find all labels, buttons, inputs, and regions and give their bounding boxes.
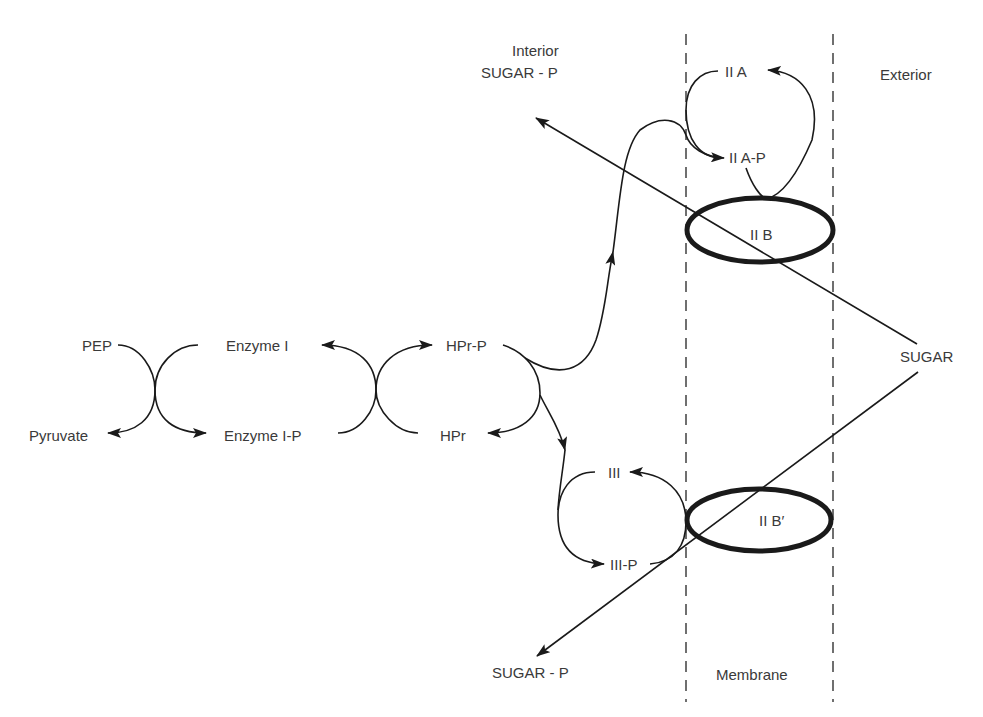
arrow-hpr-to-hpr-p xyxy=(376,345,432,433)
node-sugar-p-bottom: SUGAR - P xyxy=(492,664,569,681)
arrow-hpr-p-to-iii-p xyxy=(540,395,565,450)
node-pyruvate: Pyruvate xyxy=(29,427,88,444)
region-label-interior: Interior xyxy=(512,42,559,59)
node-sugar-p-top: SUGAR - P xyxy=(481,64,558,81)
node-iia-p: II A-P xyxy=(729,149,766,166)
node-pep: PEP xyxy=(82,337,112,354)
arrow-sugar-to-sugar-p-top xyxy=(536,118,917,344)
node-enzyme-i: Enzyme I xyxy=(226,337,289,354)
node-iib: II B xyxy=(750,226,773,243)
arrow-enzyme-i-to-enzyme-i-p xyxy=(155,345,206,433)
node-iib-prime: II B′ xyxy=(759,512,785,529)
node-iii-p: III-P xyxy=(610,556,638,573)
node-iia: II A xyxy=(725,63,747,80)
line-iii-left xyxy=(558,472,595,515)
node-enzyme-i-p: Enzyme I-P xyxy=(224,427,302,444)
arrow-to-iii-p xyxy=(558,515,604,564)
node-hpr-p: HPr-P xyxy=(446,337,487,354)
pts-diagram: Interior Exterior Membrane PEP Pyruvate … xyxy=(0,0,983,717)
region-label-membrane: Membrane xyxy=(716,666,788,683)
node-sugar: SUGAR xyxy=(900,348,954,365)
node-iii: III xyxy=(608,464,621,481)
arrow-iia-p-to-iia xyxy=(746,70,814,199)
arrow-hpr-p-to-hpr xyxy=(488,345,540,433)
arrow-hpr-p-to-iib xyxy=(525,252,613,370)
region-label-exterior: Exterior xyxy=(880,66,932,83)
node-hpr: HPr xyxy=(440,427,466,444)
arrow-enzyme-i-p-to-enzyme-i xyxy=(322,345,376,433)
arrow-pep-to-pyruvate xyxy=(108,345,155,433)
arrow-sugar-to-sugar-p-bottom xyxy=(537,372,918,656)
